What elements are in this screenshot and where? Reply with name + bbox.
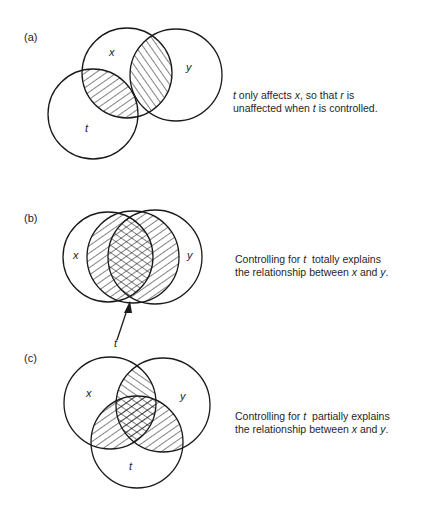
panel-a-diagram xyxy=(48,28,222,159)
panel-c-caption-line1: Controlling for t partially explains xyxy=(235,410,390,423)
panel-a-label: (a) xyxy=(24,31,37,43)
panel-a-caption-line2: unaffected when t is controlled. xyxy=(233,102,378,115)
panel-b-caption-line2: the relationship between x and y. xyxy=(235,266,389,279)
panel-a-caption-line1: t only affects x, so that r is xyxy=(233,89,378,102)
panel-c-label-y: y xyxy=(180,390,186,402)
panel-c-diagram xyxy=(64,357,210,488)
panel-b-diagram xyxy=(60,200,210,340)
panel-a-label-y: y xyxy=(186,61,192,73)
panel-c-caption-line2: the relationship between x and y. xyxy=(235,423,390,436)
panel-c-label: (c) xyxy=(24,352,37,364)
panel-c-label-x: x xyxy=(86,387,92,399)
panel-c-caption: Controlling for t partially explains the… xyxy=(235,410,390,436)
panel-b-caption-line1: Controlling for t totally explains xyxy=(235,253,389,266)
panel-a-label-t: t xyxy=(85,122,88,134)
panel-b-label-x: x xyxy=(73,249,79,261)
panel-c-label-t: t xyxy=(129,460,132,472)
panel-b-label-y: y xyxy=(187,249,193,261)
panel-b-caption: Controlling for t totally explains the r… xyxy=(235,253,389,279)
panel-a-caption: t only affects x, so that r is unaffecte… xyxy=(233,89,378,115)
panel-b-label-t: t xyxy=(114,337,117,349)
panel-a-label-x: x xyxy=(109,46,115,58)
panel-b-label: (b) xyxy=(24,212,37,224)
